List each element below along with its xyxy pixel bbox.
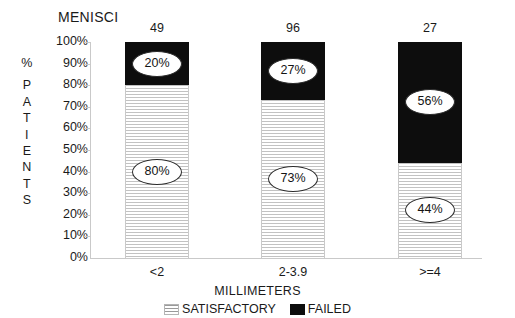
y-axis-tick-label: 80% <box>40 77 88 91</box>
y-axis-tick-label: 0% <box>40 250 88 264</box>
x-axis-line <box>90 258 482 259</box>
bar-value-label-satisfactory: 73% <box>268 166 318 192</box>
y-axis-title-char: S <box>17 192 37 208</box>
bar-total-count-label: 96 <box>286 21 300 35</box>
bar-value-label-satisfactory: 44% <box>405 197 455 223</box>
plot-area: 80%20%4973%27%9644%56%27 <box>90 42 482 258</box>
bar-value-label-failed: 27% <box>268 58 318 84</box>
y-axis-tick-labels: 100%90%80%70%60%50%40%30%20%10%0% <box>40 0 88 318</box>
chart-legend: SATISFACTORYFAILED <box>0 302 515 316</box>
y-axis-title-char: I <box>17 127 37 143</box>
bar-group[interactable]: 80%20%49 <box>125 42 189 258</box>
bar-group[interactable]: 44%56%27 <box>398 42 462 258</box>
bar-group[interactable]: 73%27%96 <box>261 42 325 258</box>
y-axis-title-char: E <box>17 143 37 159</box>
y-axis-tick-label: 90% <box>40 56 88 70</box>
y-axis-title-char: % <box>17 55 37 71</box>
x-axis-title: MILLIMETERS <box>0 284 515 298</box>
y-axis-title-char: T <box>17 110 37 126</box>
bar-value-label-failed: 56% <box>405 89 455 115</box>
y-axis-title-char: P <box>17 77 37 93</box>
y-axis-tick-label: 60% <box>40 120 88 134</box>
y-axis-tick-label: 30% <box>40 185 88 199</box>
legend-item[interactable]: FAILED <box>290 302 351 316</box>
y-axis-title-char: T <box>17 176 37 192</box>
y-axis-tick-label: 40% <box>40 164 88 178</box>
bar-value-label-satisfactory: 80% <box>132 159 182 185</box>
y-axis-tick-label: 50% <box>40 142 88 156</box>
y-axis-tick-label: 70% <box>40 99 88 113</box>
hatch-swatch-icon <box>164 304 179 315</box>
legend-item[interactable]: SATISFACTORY <box>164 302 276 316</box>
solid-black-swatch-icon <box>290 304 305 315</box>
y-axis-title: % P A T I E N T S <box>17 55 37 209</box>
legend-item-label: SATISFACTORY <box>182 302 276 316</box>
y-axis-tick-label: 100% <box>40 34 88 48</box>
y-axis-tick-label: 20% <box>40 207 88 221</box>
x-axis-tick-label: >=4 <box>370 265 490 279</box>
x-axis-tick-label: <2 <box>97 265 217 279</box>
legend-item-label: FAILED <box>308 302 351 316</box>
x-axis-tick-label: 2-3.9 <box>233 265 353 279</box>
y-axis-tick-label: 10% <box>40 228 88 242</box>
bar-value-label-failed: 20% <box>132 51 182 77</box>
bar-total-count-label: 27 <box>423 21 437 35</box>
y-axis-title-char: A <box>17 94 37 110</box>
y-axis-title-char: N <box>17 159 37 175</box>
bar-total-count-label: 49 <box>150 21 164 35</box>
